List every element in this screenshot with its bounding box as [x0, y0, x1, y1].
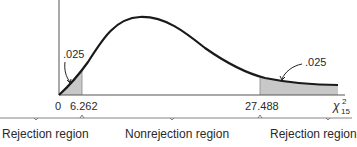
tick-label-upper-critical: 27.488	[245, 101, 279, 112]
left-arrow	[65, 62, 70, 82]
nonrejection-region-label: Nonrejection region	[125, 128, 229, 140]
density-curve	[59, 17, 338, 95]
tick-label-lower-critical: 6.262	[70, 101, 98, 112]
rejection-region-right-label: Rejection region	[270, 128, 357, 140]
rejection-region-left-label: Rejection region	[2, 128, 89, 140]
tick-label-zero: 0	[55, 101, 61, 112]
axis-symbol-chi: χ	[333, 101, 340, 112]
axis-symbol-subscript: 15	[341, 106, 350, 117]
right-tail-area-label: .025	[305, 57, 326, 68]
right-arrow	[282, 64, 302, 79]
left-tail-area-label: .025	[63, 49, 84, 60]
